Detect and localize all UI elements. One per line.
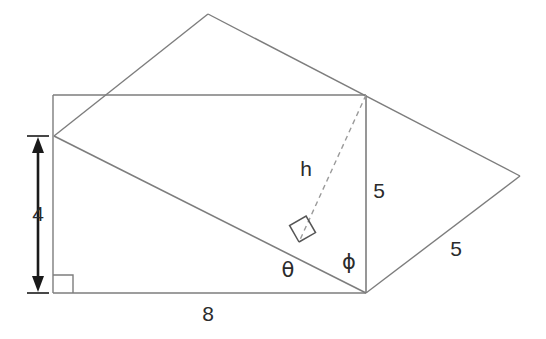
upper-left-edge bbox=[54, 14, 208, 136]
label-vertical-5: 5 bbox=[373, 179, 385, 202]
label-angle-phi: ϕ bbox=[342, 250, 356, 274]
label-altitude-h: h bbox=[300, 157, 312, 180]
lower-right-edge bbox=[366, 176, 520, 293]
geometry-diagram: 4 8 5 5 h θ ϕ bbox=[0, 0, 546, 339]
arrow-head-down-icon bbox=[32, 276, 44, 292]
label-slant-5: 5 bbox=[450, 237, 462, 260]
label-base-8: 8 bbox=[202, 302, 214, 325]
corner-square-bottom-left-icon bbox=[53, 275, 73, 293]
base-rectangle bbox=[53, 95, 366, 293]
figure-canvas: 4 8 5 5 h θ ϕ bbox=[0, 0, 546, 339]
hypotenuse-edge bbox=[54, 136, 366, 293]
arrow-head-up-icon bbox=[32, 137, 44, 153]
label-height-4: 4 bbox=[32, 202, 44, 225]
label-angle-theta: θ bbox=[282, 258, 295, 282]
altitude-foot-square-icon bbox=[289, 216, 316, 243]
